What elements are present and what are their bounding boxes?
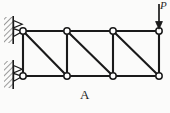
wall-hatch-top [4, 17, 13, 43]
member-diagonal-1 [23, 31, 67, 76]
joint-B3 [110, 73, 116, 79]
truss-figure: P A [0, 0, 170, 113]
member-diagonal-3 [113, 31, 159, 76]
member-diagonal-2 [67, 31, 113, 76]
load-label: P [160, 0, 167, 11]
joint-B1 [20, 73, 26, 79]
joint-T1 [20, 28, 26, 34]
joint-B4 [156, 73, 162, 79]
pin-triangle-bottom-upper [14, 66, 23, 73]
joint-B2 [64, 73, 70, 79]
joint-T2 [64, 28, 70, 34]
wall-hatch-bottom [4, 61, 13, 88]
pin-triangle-top-upper [14, 21, 23, 28]
joint-T3 [110, 28, 116, 34]
truss-members [23, 31, 159, 76]
figure-caption: A [0, 88, 170, 102]
